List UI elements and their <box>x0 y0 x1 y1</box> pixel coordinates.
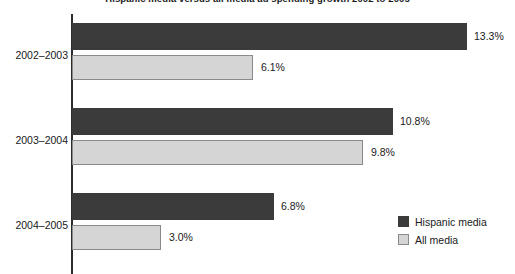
bar-value-label: 13.3% <box>474 30 504 42</box>
legend-label: All media <box>415 234 458 246</box>
bar-value-label: 6.8% <box>281 200 305 212</box>
bar-value-label: 6.1% <box>261 61 285 73</box>
category-label: 2003–2004 <box>0 134 68 146</box>
bar-value-label: 10.8% <box>400 115 430 127</box>
bar-value-label: 3.0% <box>169 231 193 243</box>
category-label: 2002–2003 <box>0 49 68 61</box>
chart-legend: Hispanic media All media <box>398 214 487 250</box>
bar-all-media <box>72 140 363 165</box>
legend-swatch-icon <box>398 234 409 245</box>
legend-label: Hispanic media <box>415 216 487 228</box>
bar-all-media <box>72 55 253 80</box>
bar-all-media <box>72 225 161 250</box>
bar-hispanic-media <box>72 108 393 135</box>
bar-hispanic-media <box>72 193 274 220</box>
legend-swatch-icon <box>398 216 409 227</box>
bar-chart: Hispanic media versus all media ad spend… <box>0 0 515 274</box>
bar-value-label: 9.8% <box>371 146 395 158</box>
legend-item-hispanic-media: Hispanic media <box>398 214 487 229</box>
legend-item-all-media: All media <box>398 232 487 247</box>
category-label: 2004–2005 <box>0 219 68 231</box>
bar-hispanic-media <box>72 23 467 50</box>
